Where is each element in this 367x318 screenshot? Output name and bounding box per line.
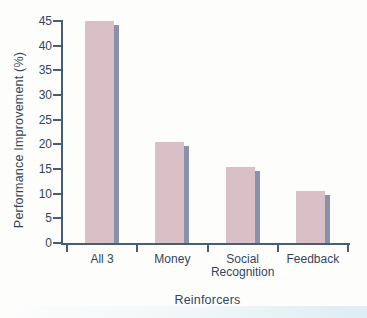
x-axis-tick <box>277 245 279 252</box>
bar <box>296 191 325 243</box>
y-tick-label: 35 <box>24 64 52 76</box>
y-tick-label: 45 <box>24 15 52 27</box>
y-axis-tick <box>53 242 61 244</box>
x-category-label-line: Recognition <box>195 266 291 279</box>
y-axis-tick <box>53 143 61 145</box>
y-axis-tick <box>53 69 61 71</box>
y-axis-tick <box>53 94 61 96</box>
y-axis-tick <box>53 168 61 170</box>
y-tick-label: 40 <box>24 40 52 52</box>
x-category-label: Feedback <box>265 253 361 266</box>
bar <box>85 21 114 243</box>
x-axis-tick <box>66 245 68 252</box>
y-axis-tick <box>53 45 61 47</box>
bar <box>226 167 255 243</box>
bar <box>155 142 184 243</box>
bar-shadow <box>325 195 330 243</box>
bar-shadow <box>255 171 260 243</box>
y-tick-label: 0 <box>24 237 52 249</box>
x-axis-tick <box>207 245 209 252</box>
bar-chart-figure: Performance Improvement (%) Reinforcers … <box>0 0 367 318</box>
y-tick-label: 20 <box>24 138 52 150</box>
y-tick-label: 10 <box>24 188 52 200</box>
bar-shadow <box>114 25 119 243</box>
y-axis-tick <box>53 217 61 219</box>
x-axis-line <box>61 243 350 245</box>
scan-artifact-tint <box>0 306 367 318</box>
y-axis-tick <box>53 20 61 22</box>
y-tick-label: 15 <box>24 163 52 175</box>
y-tick-label: 25 <box>24 114 52 126</box>
x-category-label-line: Feedback <box>265 253 361 266</box>
y-axis-tick <box>53 119 61 121</box>
y-tick-label: 30 <box>24 89 52 101</box>
y-axis-tick <box>53 193 61 195</box>
bar-shadow <box>184 146 189 243</box>
x-axis-title: Reinforcers <box>110 293 305 307</box>
y-tick-label: 5 <box>24 212 52 224</box>
y-axis-line <box>61 20 63 245</box>
x-axis-tick <box>136 245 138 252</box>
x-axis-tick <box>347 245 349 252</box>
